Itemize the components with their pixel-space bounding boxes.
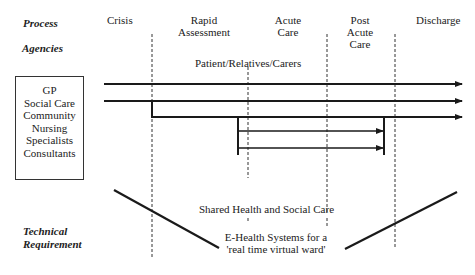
community-nursing-arrow [152,101,462,117]
tech-requirement-right-slope [345,192,457,249]
diagram-lines [0,0,475,275]
tech-requirement-left-slope [114,190,219,248]
phase-divider-lines [152,34,395,258]
